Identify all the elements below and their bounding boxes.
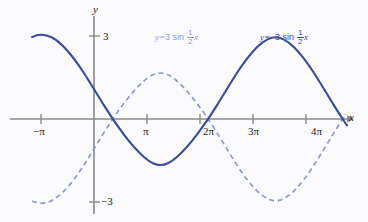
dashed-curve-equation-label: y=3 sin 12x: [155, 29, 198, 47]
dashed-eqn-coef: 3 sin: [165, 32, 187, 42]
dashed-eqn-denominator: 2: [187, 38, 193, 46]
solid-curve-equation-label: y=–3 sin 12x: [260, 29, 308, 47]
solid-sine-curve: [32, 35, 347, 165]
solid-eqn-denominator: 2: [297, 38, 303, 46]
y-tick-label-3: 3: [103, 31, 109, 42]
x-tick-label-3pi: 3π: [248, 126, 259, 137]
x-axis-label: x: [349, 112, 354, 123]
dashed-eqn-variable: x: [194, 32, 198, 42]
dashed-eqn-fraction: 12: [187, 29, 193, 47]
x-tick-label-4pi: 4π: [311, 126, 322, 137]
x-tick-label-neg-pi: −π: [33, 126, 45, 137]
dashed-eqn-lhs: y=: [155, 32, 165, 42]
y-tick-label-neg-3: −3: [101, 196, 113, 207]
solid-eqn-variable: x: [304, 32, 308, 42]
x-tick-label-pi: π: [143, 126, 149, 137]
solid-eqn-coef: –3 sin: [270, 32, 297, 42]
solid-eqn-fraction: 12: [297, 29, 303, 47]
solid-eqn-lhs: y=: [260, 32, 270, 42]
y-axis-label: y: [93, 4, 98, 15]
x-tick-label-2pi: 2π: [203, 126, 214, 137]
dashed-sine-curve: [32, 73, 346, 203]
